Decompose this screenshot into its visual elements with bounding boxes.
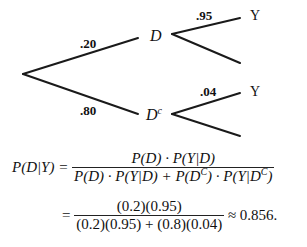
denominator-part3: )	[267, 168, 272, 184]
node-Dc: Dc	[146, 106, 162, 124]
branch-Dc-to-notY	[172, 114, 240, 136]
node-Y-bottom: Y	[250, 84, 260, 100]
formula-numerator-symbolic: P(D) · P(Y|D)	[72, 150, 274, 167]
denominator-part2: ) · P(Y|D	[207, 168, 261, 184]
formula-lhs: P(D|Y) =	[12, 159, 68, 175]
node-Dc-superscript: c	[158, 105, 162, 116]
prob-label-Y-given-D: .95	[196, 8, 212, 24]
prob-label-Dc: .80	[80, 103, 96, 119]
node-Dc-base: D	[146, 106, 158, 123]
formula-numerator-numeric: (0.2)(0.95)	[74, 198, 224, 215]
prob-label-Y-given-Dc: .04	[200, 84, 216, 100]
branch-D-to-notY	[172, 34, 240, 63]
node-Y-top: Y	[250, 8, 260, 24]
formula-result: ≈ 0.856.	[228, 207, 277, 223]
formula-equals: =	[62, 207, 70, 223]
formula-fraction-numeric: (0.2)(0.95) (0.2)(0.95) + (0.8)(0.04)	[74, 198, 224, 233]
denominator-part1: P(D) · P(Y|D) + P(D	[74, 168, 200, 184]
node-D: D	[150, 27, 162, 45]
formula-denominator-numeric: (0.2)(0.95) + (0.8)(0.04)	[74, 215, 224, 233]
formula-fraction-symbolic: P(D) · P(Y|D) P(D) · P(Y|D) + P(DC) · P(…	[72, 150, 274, 185]
bayes-formula-line2: = (0.2)(0.95) (0.2)(0.95) + (0.8)(0.04) …	[62, 198, 277, 233]
prob-label-D: .20	[80, 36, 96, 52]
bayes-formula-line1: P(D|Y) = P(D) · P(Y|D) P(D) · P(Y|D) + P…	[12, 150, 274, 185]
formula-denominator-symbolic: P(D) · P(Y|D) + P(DC) · P(Y|DC)	[72, 167, 274, 185]
